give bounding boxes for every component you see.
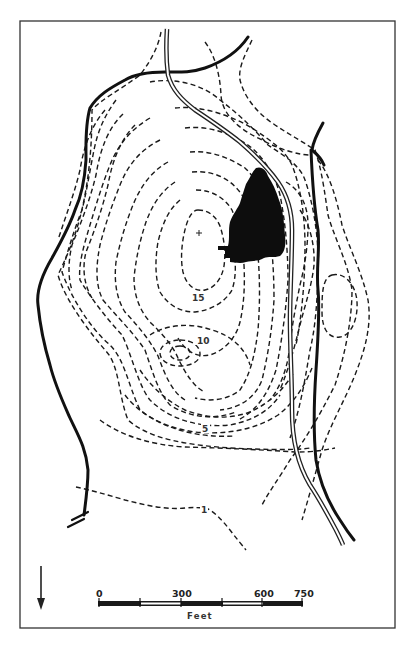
contour-label-15: 15: [192, 293, 205, 303]
contour-lines: [58, 32, 369, 550]
topographic-map: 15 10 5 1 0 300 600 750 Feet: [0, 0, 414, 646]
contour-label-1: 1: [201, 505, 207, 515]
scale-tick-300: 300: [172, 588, 192, 599]
contour-label-10: 10: [197, 336, 210, 346]
summit-marker-icon: [196, 230, 202, 236]
scale-tick-750: 750: [294, 588, 314, 599]
contour-label-5: 5: [202, 424, 208, 434]
scale-bar: 0 300 600 750 Feet: [96, 588, 314, 621]
north-arrow-icon: [37, 566, 45, 610]
scale-tick-600: 600: [254, 588, 274, 599]
scale-tick-0: 0: [96, 588, 103, 599]
scale-unit-label: Feet: [187, 611, 213, 621]
